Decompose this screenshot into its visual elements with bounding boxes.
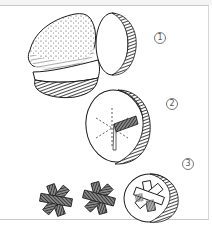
step-3-label: 3: [182, 158, 194, 170]
asterisk-stamp-2: [80, 178, 119, 217]
slice-with-raised-asterisk: [120, 170, 180, 226]
step-2-carved-slice: [81, 86, 150, 165]
step-1-label: 1: [154, 32, 166, 44]
step-3-stamps: [36, 170, 180, 226]
step-1-potato: [28, 13, 136, 98]
asterisk-stamp-1: [36, 180, 77, 221]
step-2-label: 2: [166, 98, 178, 110]
potato-stamp-illustration: [0, 0, 212, 233]
